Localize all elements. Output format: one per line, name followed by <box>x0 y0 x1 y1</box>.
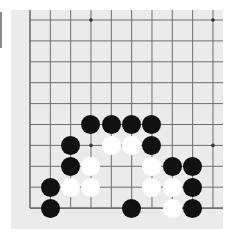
black-stone <box>41 199 60 218</box>
black-stone <box>61 136 80 155</box>
white-stone <box>163 178 182 197</box>
black-stone <box>122 199 141 218</box>
white-stone <box>102 136 121 155</box>
star-point <box>211 18 215 22</box>
black-stone <box>183 178 202 197</box>
white-stone <box>163 199 182 218</box>
star-point <box>211 144 215 148</box>
black-stone <box>102 115 121 134</box>
black-stone <box>163 157 182 176</box>
white-stone <box>122 136 141 155</box>
black-stone <box>61 157 80 176</box>
white-stone <box>61 178 80 197</box>
star-point <box>89 18 93 22</box>
go-board[interactable] <box>11 10 223 229</box>
black-stone <box>183 199 202 218</box>
black-stone <box>122 115 141 134</box>
star-point <box>89 144 93 148</box>
black-stone <box>41 178 60 197</box>
page-edge-bar <box>0 12 2 48</box>
black-stone <box>183 157 202 176</box>
